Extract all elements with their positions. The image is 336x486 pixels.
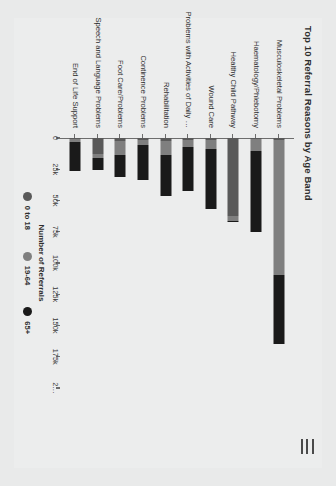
page-title: Top 10 Referral Reasons by Age Band [303, 26, 314, 201]
value-tick-label-0: 0 [51, 136, 60, 140]
category-label-10: End of Life Support [71, 63, 80, 128]
legend-item-0-to-18[interactable]: 0 to 18 [23, 192, 32, 230]
category-label-2: Haematology/Phlebotomy [252, 41, 261, 128]
value-tick-label-1: 25k [51, 163, 60, 175]
bar-segment-0-to-18[interactable] [92, 138, 103, 154]
bar-1[interactable] [273, 138, 284, 388]
hamburger-bar [307, 439, 309, 454]
value-axis-labels: 025k50k75k100k125k150k175k2… [46, 138, 60, 390]
bar-7[interactable] [138, 138, 149, 388]
bar-5[interactable] [183, 138, 194, 388]
legend-swatch-icon [23, 192, 32, 201]
category-label-5: Problems with Activities of Daily … [184, 12, 193, 128]
bar-segment-65-[interactable] [138, 145, 149, 180]
category-label-6: Rehabilitation [161, 82, 170, 128]
value-tick-label-7: 175k [51, 349, 60, 365]
value-tick-label-3: 75k [51, 226, 60, 238]
bar-segment-65-[interactable] [205, 149, 216, 208]
category-label-1: Musculoskeletal Problems [274, 40, 283, 128]
category-axis-labels: Musculoskeletal ProblemsHaematology/Phle… [64, 18, 290, 136]
bar-segment-19-64[interactable] [183, 140, 194, 148]
bar-segment-19-64[interactable] [273, 140, 284, 275]
hamburger-bar [301, 439, 303, 454]
category-label-7: Continence Problems [139, 55, 148, 128]
x-axis-title: Number of Referrals [37, 138, 46, 388]
bar-segment-65-[interactable] [115, 155, 126, 177]
bar-9[interactable] [92, 138, 103, 388]
category-label-9: Speech and Language Problems [93, 17, 102, 128]
legend-swatch-icon [23, 252, 32, 261]
bar-8[interactable] [115, 138, 126, 388]
legend-swatch-icon [23, 307, 32, 316]
category-label-3: Healthy Child Pathway [229, 52, 238, 128]
plot-area [64, 138, 290, 388]
bar-segment-65-[interactable] [228, 221, 239, 223]
bar-6[interactable] [160, 138, 171, 388]
bar-segment-19-64[interactable] [160, 141, 171, 155]
category-label-8: Foot Care/Problems [116, 60, 125, 128]
bar-segment-65-[interactable] [160, 155, 171, 196]
rotated-canvas: Top 10 Referral Reasons by Age Band Musc… [0, 0, 336, 486]
legend-item-19-64[interactable]: 19-64 [23, 252, 32, 285]
bar-10[interactable] [70, 138, 81, 388]
value-tick-label-6: 150k [51, 317, 60, 333]
bar-segment-65-[interactable] [92, 158, 103, 170]
value-tick-label-2: 50k [51, 195, 60, 207]
hamburger-bar [312, 439, 314, 454]
legend-label: 0 to 18 [23, 206, 32, 230]
bar-4[interactable] [205, 138, 216, 388]
bar-segment-0-to-18[interactable] [228, 138, 239, 216]
bar-segment-65-[interactable] [251, 151, 262, 232]
bar-segment-65-[interactable] [70, 142, 81, 171]
bar-3[interactable] [228, 138, 239, 388]
legend-label: 65+ [23, 321, 32, 334]
screenshot-root: Top 10 Referral Reasons by Age Band Musc… [0, 0, 336, 486]
bar-segment-19-64[interactable] [205, 140, 216, 149]
chart-legend: 0 to 1819-6465+ [23, 138, 32, 388]
value-tick-label-5: 125k [51, 286, 60, 302]
legend-label: 19-64 [23, 266, 32, 285]
bar-segment-19-64[interactable] [251, 139, 262, 150]
bar-segment-65-[interactable] [273, 275, 284, 344]
value-tick-label-8: 2… [51, 382, 60, 394]
category-label-4: Wound Care [206, 86, 215, 129]
chart-card: Top 10 Referral Reasons by Age Band Musc… [14, 18, 322, 468]
hamburger-icon[interactable] [301, 439, 314, 454]
legend-item-65-[interactable]: 65+ [23, 307, 32, 334]
bar-segment-19-64[interactable] [115, 141, 126, 155]
bar-2[interactable] [251, 138, 262, 388]
value-tick-label-4: 100k [51, 255, 60, 271]
bar-segment-65-[interactable] [183, 147, 194, 191]
